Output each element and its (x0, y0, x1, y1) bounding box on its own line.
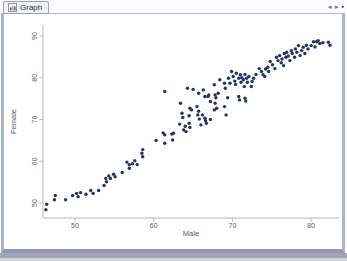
data-point (154, 139, 157, 142)
data-point (213, 102, 216, 105)
data-point (136, 163, 139, 166)
data-point (207, 93, 210, 96)
data-point (104, 177, 107, 180)
x-tick-label: 60 (150, 222, 158, 229)
x-tick-label: 50 (71, 222, 79, 229)
x-axis-title: Male (183, 229, 199, 238)
tab-graph[interactable]: Graph (3, 1, 49, 14)
data-point (232, 75, 235, 78)
data-point (234, 83, 237, 86)
y-tick-label: 60 (31, 157, 38, 165)
data-point (141, 148, 144, 151)
data-point (54, 194, 57, 197)
tab-bar: Graph ◂ ▸ ▪ (0, 0, 347, 13)
data-point (133, 159, 136, 162)
data-point (280, 57, 283, 60)
data-point (84, 193, 87, 196)
close-icon[interactable]: ▪ (342, 2, 344, 11)
data-point (209, 118, 212, 121)
data-point (109, 177, 112, 180)
data-point (44, 208, 47, 211)
data-point (246, 81, 249, 84)
data-point (224, 87, 227, 90)
data-point (215, 107, 218, 110)
data-point (239, 73, 242, 76)
data-point (190, 108, 193, 111)
data-point (217, 92, 220, 95)
data-point (172, 132, 175, 135)
data-point (230, 70, 233, 73)
data-point (201, 113, 204, 116)
data-point (294, 47, 297, 50)
data-point (187, 122, 190, 125)
data-point (226, 96, 229, 99)
data-point (312, 40, 315, 43)
data-point (287, 54, 290, 57)
data-point (278, 54, 281, 57)
scroll-left-icon[interactable]: ◂ (328, 2, 332, 11)
data-point (302, 46, 305, 49)
data-point (125, 160, 128, 163)
data-point (242, 78, 245, 81)
data-point (188, 126, 191, 129)
data-point (250, 85, 253, 88)
y-tick-label: 70 (31, 116, 38, 124)
data-point (209, 100, 212, 103)
data-point (199, 123, 202, 126)
data-point (293, 56, 296, 59)
data-point (223, 105, 226, 108)
data-point (309, 44, 312, 47)
y-axis-title: Female (9, 109, 18, 134)
data-point (243, 85, 246, 88)
graph-icon (8, 3, 17, 12)
data-point (214, 96, 217, 99)
data-point (213, 93, 216, 96)
y-tick-label: 90 (31, 32, 38, 40)
data-point (179, 102, 182, 105)
scroll-right-icon[interactable]: ▸ (335, 2, 339, 11)
data-point (244, 99, 247, 102)
data-point (76, 195, 79, 198)
data-point (250, 80, 253, 83)
data-point (303, 52, 306, 55)
data-point (300, 49, 303, 52)
data-point (223, 82, 226, 85)
data-point (197, 110, 200, 113)
data-point (254, 73, 257, 76)
data-point (275, 56, 278, 59)
data-point (171, 138, 174, 141)
data-point (45, 203, 48, 206)
data-point (243, 97, 246, 100)
data-point (71, 194, 74, 197)
data-point (202, 88, 205, 91)
data-point (328, 44, 331, 47)
data-point (89, 189, 92, 192)
data-point (267, 70, 270, 73)
data-point (227, 77, 230, 80)
data-point (79, 191, 82, 194)
data-point (197, 92, 200, 95)
data-point (131, 162, 134, 165)
data-point (180, 112, 183, 115)
data-point (113, 175, 116, 178)
tab-controls: ◂ ▸ ▪ (328, 2, 344, 11)
data-point (313, 45, 316, 48)
data-point (218, 78, 221, 81)
x-tick-label: 80 (307, 222, 315, 229)
data-point (178, 122, 181, 125)
data-point (141, 155, 144, 158)
data-point (186, 87, 189, 90)
data-point (128, 167, 131, 170)
data-point (198, 117, 201, 120)
data-point (273, 67, 276, 70)
data-point (235, 72, 238, 75)
data-point (247, 75, 250, 78)
data-point (195, 105, 198, 108)
data-point (97, 189, 100, 192)
data-point (105, 180, 108, 183)
data-point (243, 73, 246, 76)
data-point (306, 47, 309, 50)
data-point (187, 114, 190, 117)
data-point (184, 125, 187, 128)
data-point (64, 198, 67, 201)
